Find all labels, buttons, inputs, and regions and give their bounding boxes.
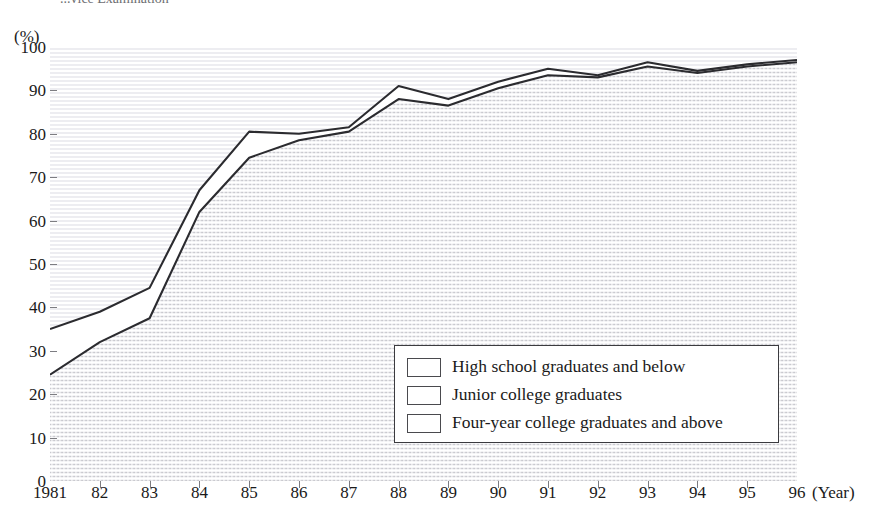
y-tick-label: 50	[29, 256, 46, 273]
x-axis-title: (Year)	[812, 484, 855, 501]
x-tick-mark	[697, 481, 698, 488]
x-tick-mark	[349, 481, 350, 488]
x-tick-mark	[648, 481, 649, 488]
chart-container: ...vice Examination (%) 0102030405060708…	[0, 0, 880, 509]
legend-item-label: High school graduates and below	[452, 358, 685, 376]
x-tick-mark	[548, 481, 549, 488]
y-tick-mark	[50, 177, 57, 178]
y-tick-label: 90	[29, 82, 46, 99]
legend-item: Four-year college graduates and above	[407, 409, 778, 437]
y-tick-label: 60	[29, 212, 46, 229]
y-tick-label: 70	[29, 169, 46, 186]
y-tick-label: 20	[29, 386, 46, 403]
legend: High school graduates and belowJunior co…	[394, 345, 779, 443]
y-tick-mark	[50, 394, 57, 395]
x-tick-label: 1981	[33, 484, 67, 501]
legend-item: High school graduates and below	[407, 353, 778, 381]
y-tick-mark	[50, 134, 57, 135]
x-tick-mark	[399, 481, 400, 488]
x-tick-label: 96	[789, 484, 806, 501]
legend-item: Junior college graduates	[407, 381, 778, 409]
x-tick-mark	[249, 481, 250, 488]
y-tick-mark	[50, 307, 57, 308]
y-tick-label: 10	[29, 429, 46, 446]
y-tick-label: 80	[29, 125, 46, 142]
x-tick-mark	[150, 481, 151, 488]
chart-title-cropped: ...vice Examination	[0, 0, 880, 11]
y-tick-label: 30	[29, 342, 46, 359]
y-tick-label: 100	[21, 39, 47, 56]
legend-swatch-icon	[407, 414, 441, 433]
y-tick-label: 40	[29, 299, 46, 316]
y-tick-mark	[50, 438, 57, 439]
legend-item-label: Four-year college graduates and above	[452, 414, 723, 432]
y-tick-mark	[50, 90, 57, 91]
legend-swatch-icon	[407, 386, 441, 405]
x-tick-mark	[498, 481, 499, 488]
x-tick-mark	[100, 481, 101, 488]
x-tick-mark	[199, 481, 200, 488]
x-tick-mark	[747, 481, 748, 488]
y-axis-labels: 0102030405060708090100	[0, 47, 46, 481]
x-tick-mark	[299, 481, 300, 488]
x-tick-mark	[598, 481, 599, 488]
y-tick-mark	[50, 351, 57, 352]
legend-swatch-icon	[407, 358, 441, 377]
x-tick-mark	[448, 481, 449, 488]
y-tick-mark	[50, 264, 57, 265]
legend-item-label: Junior college graduates	[452, 386, 622, 404]
y-tick-mark	[50, 221, 57, 222]
page-title: ...vice Examination	[60, 0, 169, 7]
